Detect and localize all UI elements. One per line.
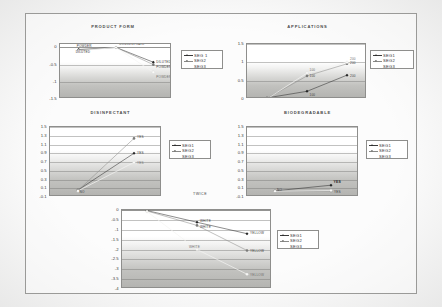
legend-label: SEG1 bbox=[289, 233, 303, 238]
chart-legend[interactable]: SEG1SEG2SEG3 bbox=[169, 140, 211, 159]
y-axis-tick-label: 1.1 bbox=[23, 141, 47, 146]
series-line bbox=[78, 153, 134, 190]
data-point bbox=[306, 90, 309, 93]
chart-title: DISINFECTANT bbox=[23, 110, 198, 115]
plot-area: NOYESYES bbox=[246, 126, 358, 196]
legend-marker-icon bbox=[280, 244, 289, 249]
y-axis-tick-label: 1.5 bbox=[220, 124, 244, 129]
legend-marker-icon bbox=[373, 58, 382, 63]
data-point bbox=[306, 72, 309, 75]
chart-legend[interactable]: SEG1SEG2SEG3 bbox=[277, 230, 319, 249]
legend-label: SEG2 bbox=[181, 148, 195, 153]
data-point bbox=[330, 189, 333, 192]
legend-label: SEG1 bbox=[382, 53, 396, 58]
plot-background: NOYESYESYES bbox=[49, 126, 161, 196]
data-point bbox=[146, 210, 149, 213]
y-axis-tick-label: 0.5 bbox=[23, 167, 47, 172]
data-point bbox=[196, 221, 199, 224]
data-point-label: DILUTED bbox=[156, 60, 171, 64]
data-point-label: WHITE bbox=[189, 245, 200, 249]
chart-product-form: PRODUCT FORM POWDERDILUTEDCONCENTRATEDIL… bbox=[33, 24, 193, 102]
data-point-label: YES bbox=[334, 190, 341, 194]
data-point-label: BLUE bbox=[146, 209, 155, 210]
series-line bbox=[78, 162, 134, 190]
legend-marker-icon bbox=[172, 148, 181, 153]
data-point bbox=[133, 152, 136, 155]
y-axis-tick-label: 1.1 bbox=[220, 141, 244, 146]
data-point-label: YES bbox=[137, 151, 144, 155]
y-axis-tick-label: 0.3 bbox=[220, 176, 244, 181]
chart-biodegradable: BIODEGRADABLE NOYESYES 1.51.31.10.90.70.… bbox=[220, 110, 395, 200]
data-point bbox=[246, 249, 249, 252]
data-point-label: 100 bbox=[310, 74, 316, 78]
legend-item[interactable]: SEG3 bbox=[172, 154, 209, 160]
y-axis-tick-label: 0.1 bbox=[23, 185, 47, 190]
data-point bbox=[346, 61, 349, 64]
plot-background: POWDERDILUTEDCONCENTRATEDILUTEDPOWDERPOW… bbox=[59, 43, 171, 98]
legend-marker-icon bbox=[369, 143, 378, 148]
legend-item[interactable]: SEG3 bbox=[280, 244, 317, 250]
data-point bbox=[115, 46, 118, 49]
legend-label: SEG3 bbox=[382, 64, 396, 69]
y-axis-tick-label: -1 bbox=[33, 78, 57, 83]
y-axis-tick-label: 0.7 bbox=[220, 159, 244, 164]
chart-applications: APPLICATIONS 100100100200200200 1.510.50… bbox=[220, 24, 395, 102]
legend-item[interactable]: SEG3 bbox=[369, 154, 406, 160]
data-point-label: POWDER bbox=[156, 75, 171, 79]
legend-label: SEG2 bbox=[289, 238, 303, 243]
y-axis-tick-label: -1.5 bbox=[33, 96, 57, 101]
legend-marker-icon bbox=[373, 53, 382, 58]
y-axis-tick-label: 0 bbox=[220, 96, 244, 101]
y-axis-tick-label: -1.5 bbox=[95, 236, 119, 241]
y-axis-tick-label: -1 bbox=[95, 226, 119, 231]
chart-legend[interactable]: SEG1SEG2SEG3 bbox=[366, 140, 408, 159]
y-axis-tick-label: -0.1 bbox=[220, 194, 244, 199]
data-point-label: 100 bbox=[310, 93, 316, 97]
data-point-label: 100 bbox=[310, 68, 316, 72]
data-point bbox=[152, 63, 155, 66]
document-page: PRODUCT FORM POWDERDILUTEDCONCENTRATEDIL… bbox=[0, 0, 442, 307]
plot-area: 100100100200200200 bbox=[246, 43, 366, 98]
legend-marker-icon bbox=[280, 233, 289, 238]
series-layer bbox=[247, 44, 366, 98]
data-point-label: NO bbox=[277, 188, 282, 192]
plot-area: POWDERDILUTEDCONCENTRATEDILUTEDPOWDERPOW… bbox=[59, 43, 171, 98]
data-point bbox=[274, 190, 277, 193]
data-point-label: 200 bbox=[350, 61, 356, 65]
chart-legend[interactable]: SEG 1SEG2SEG3 bbox=[181, 50, 223, 69]
data-point bbox=[266, 96, 269, 98]
legend-marker-icon bbox=[172, 154, 181, 159]
y-axis-tick-label: -3.5 bbox=[95, 276, 119, 281]
y-axis-tick-label: 0 bbox=[95, 207, 119, 212]
series-line bbox=[78, 138, 134, 190]
y-axis-tick-label: -2 bbox=[95, 246, 119, 251]
series-line bbox=[267, 64, 347, 98]
legend-item[interactable]: SEG3 bbox=[184, 64, 221, 70]
data-point bbox=[133, 137, 136, 140]
legend-label: SEG3 bbox=[289, 244, 303, 249]
chart-title: BIODEGRADABLE bbox=[220, 110, 395, 115]
chart-title: PRODUCT FORM bbox=[33, 24, 193, 29]
y-axis-tick-label: -2.5 bbox=[95, 256, 119, 261]
series-layer bbox=[247, 127, 358, 196]
y-axis-tick-label: 1.5 bbox=[23, 124, 47, 129]
y-axis-tick-label: -0.5 bbox=[95, 216, 119, 221]
data-point bbox=[246, 273, 249, 276]
legend-marker-icon bbox=[369, 154, 378, 159]
legend-label: SEG 1 bbox=[193, 53, 208, 58]
legend-marker-icon bbox=[184, 58, 193, 63]
legend-marker-icon bbox=[280, 238, 289, 243]
y-axis-tick-label: 0 bbox=[33, 44, 57, 49]
legend-label: SEG2 bbox=[382, 58, 396, 63]
chart-disinfectant: DISINFECTANT NOYESYESYES TWICE 1.51.31.1… bbox=[23, 110, 198, 200]
y-axis-tick-label: -0.1 bbox=[23, 194, 47, 199]
legend-label: SEG1 bbox=[181, 143, 195, 148]
y-axis-tick-label: 0.1 bbox=[220, 185, 244, 190]
y-axis-tick-label: 1 bbox=[220, 59, 244, 64]
legend-label: SEG3 bbox=[193, 64, 207, 69]
legend-label: SEG2 bbox=[193, 58, 207, 63]
chart-title: APPLICATIONS bbox=[220, 24, 395, 29]
legend-item[interactable]: SEG3 bbox=[373, 64, 412, 70]
chart-legend[interactable]: SEG1SEG2SEG3 bbox=[370, 50, 414, 69]
data-point bbox=[152, 71, 155, 74]
